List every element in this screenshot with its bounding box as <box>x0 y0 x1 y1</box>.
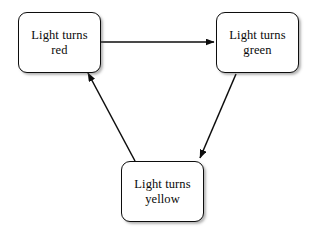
node-light-turns-yellow: Light turns yellow <box>121 161 204 222</box>
diagram-canvas: Light turns red Light turns green Light … <box>0 0 315 230</box>
node-label-green: Light turns green <box>225 28 289 58</box>
node-label-red: Light turns red <box>27 28 91 58</box>
edge-green-to-yellow <box>200 74 236 158</box>
node-light-turns-red: Light turns red <box>18 12 101 73</box>
edge-yellow-to-red <box>88 73 135 161</box>
node-light-turns-green: Light turns green <box>216 12 299 73</box>
node-label-yellow: Light turns yellow <box>130 177 194 207</box>
